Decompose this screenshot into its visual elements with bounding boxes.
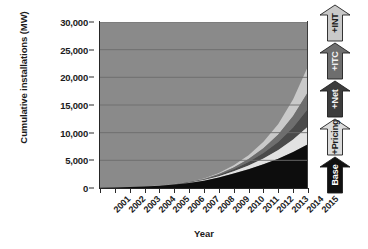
legend-arrow-pricing: +Pricing (318, 118, 352, 156)
x-tick-mark (189, 189, 190, 193)
legend-arrow-itc: +ITC (318, 42, 352, 80)
arrow-glyph-icon (320, 157, 350, 193)
arrow-glyph-icon (320, 119, 350, 155)
legend-arrow-net: +Net (318, 80, 352, 118)
x-tick-mark (234, 189, 235, 193)
x-tick-mark (219, 189, 220, 193)
legend-arrow-base: Base (318, 156, 352, 194)
x-tick-mark (263, 189, 264, 193)
arrow-shape (318, 156, 352, 194)
arrow-glyph-icon (320, 81, 350, 117)
x-tick-mark (278, 189, 279, 193)
arrow-shape (318, 118, 352, 156)
legend-arrow-int: +INT (318, 4, 352, 42)
x-tick-mark (100, 189, 101, 193)
arrow-glyph-icon (320, 43, 350, 79)
chart-figure: Cumulative installations (MW) 05,00010,0… (0, 0, 368, 249)
x-tick-label: 2015 (320, 194, 341, 215)
x-tick-mark (145, 189, 146, 193)
x-tick-mark (308, 189, 309, 193)
x-tick-mark (293, 189, 294, 193)
x-tick-mark (174, 189, 175, 193)
arrow-shape (318, 4, 352, 42)
x-axis-ticks: 2001200220032004200520062007200820092010… (0, 0, 368, 249)
x-tick-mark (159, 189, 160, 193)
x-tick-mark (204, 189, 205, 193)
arrow-shape (318, 80, 352, 118)
x-tick-mark (115, 189, 116, 193)
arrow-shape (318, 42, 352, 80)
scenario-arrow-legend: +INT+ITC+Net+PricingBase (316, 4, 356, 196)
x-tick-mark (130, 189, 131, 193)
arrow-glyph-icon (320, 5, 350, 41)
x-axis-title: Year (100, 228, 308, 239)
x-tick-mark (249, 189, 250, 193)
